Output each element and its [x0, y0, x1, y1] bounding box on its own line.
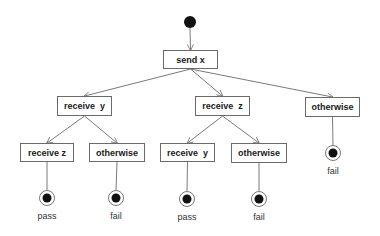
state-box-receive-y: receive y — [160, 143, 215, 162]
final-state-icon — [180, 192, 195, 207]
final-state-icon — [326, 146, 341, 161]
state-box-receive-z: receive z — [20, 143, 74, 162]
edge-line — [333, 117, 334, 145]
edge-line — [223, 116, 260, 143]
edge-line — [190, 28, 191, 50]
edge-line — [187, 162, 188, 191]
state-box-receive-z: receive z — [195, 96, 250, 116]
final-state-icon — [252, 192, 267, 207]
final-state-label-fail: fail — [253, 212, 265, 222]
edge-line — [47, 116, 85, 143]
final-state-label-fail: fail — [110, 211, 122, 221]
edge-line — [188, 116, 223, 143]
initial-state-icon — [184, 16, 196, 28]
edge-line — [191, 69, 223, 96]
edge-line — [116, 162, 117, 190]
state-box-otherwise: otherwise — [89, 143, 145, 162]
final-state-label-pass: pass — [177, 212, 196, 222]
activity-diagram: send xreceive yreceive zotherwisereceive… — [0, 0, 380, 236]
final-state-label-pass: pass — [37, 211, 56, 221]
state-box-otherwise: otherwise — [305, 97, 360, 117]
edge-line — [85, 69, 191, 96]
state-box-send-x: send x — [163, 50, 218, 69]
state-box-receive-y: receive y — [57, 96, 112, 116]
final-state-label-fail: fail — [327, 166, 339, 176]
final-state-icon — [109, 191, 124, 206]
diagram-edges — [0, 0, 380, 236]
edge-line — [191, 69, 333, 97]
final-state-icon — [40, 191, 55, 206]
state-box-otherwise: otherwise — [231, 143, 287, 163]
edge-line — [85, 116, 118, 143]
